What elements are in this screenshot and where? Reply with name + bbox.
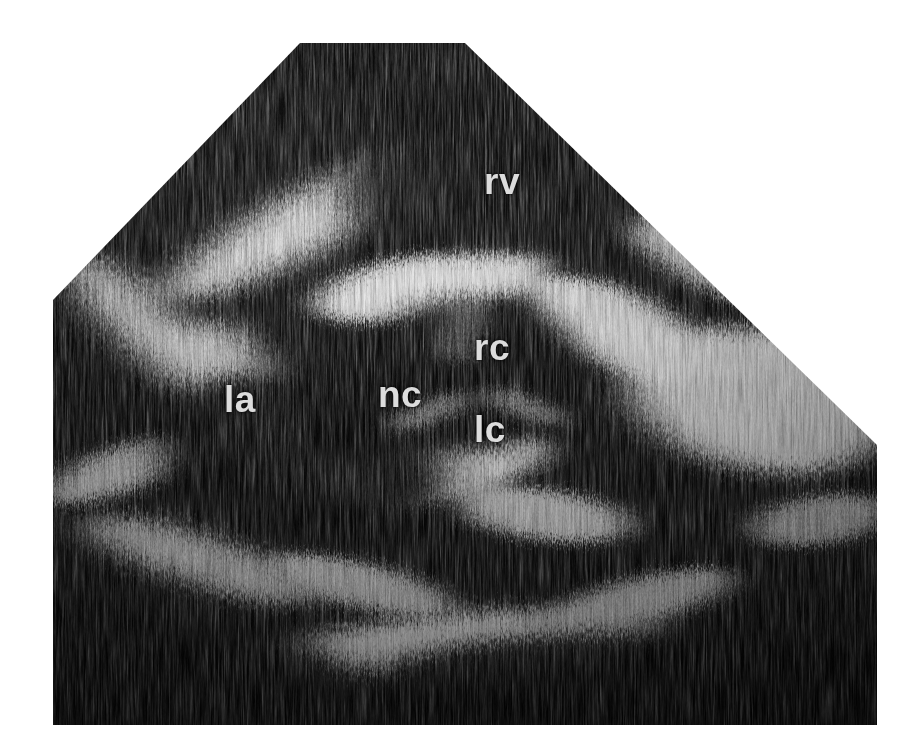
ultrasound-canvas	[0, 0, 913, 749]
label-nc: nc	[378, 376, 422, 413]
label-rv: rv	[484, 163, 520, 200]
label-lc: lc	[474, 411, 506, 448]
ultrasound-sector-image	[0, 0, 913, 749]
echocardiogram-figure: rv rc nc lc la	[0, 0, 913, 749]
label-rc: rc	[474, 329, 510, 366]
label-la: la	[224, 381, 256, 418]
